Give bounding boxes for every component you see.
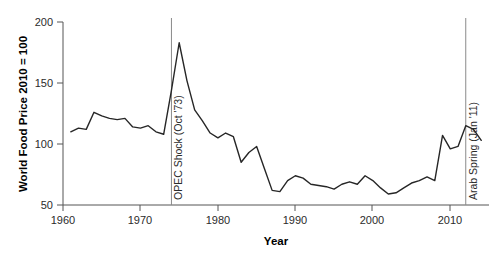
- x-tick-label-1970: 1970: [128, 214, 152, 226]
- x-tick-label-2000: 2000: [360, 214, 384, 226]
- arab-spring-label: Arab Spring (Jan '11): [467, 102, 479, 200]
- x-tick-label-1980: 1980: [206, 214, 230, 226]
- opec-shock-label: OPEC Shock (Oct '73): [172, 95, 184, 200]
- axis-group: 200 150 100 50 1960 1970 1980 1990 2000 …: [35, 16, 489, 226]
- y-tick-label-150: 150: [35, 77, 53, 89]
- y-tick-label-100: 100: [35, 138, 53, 150]
- x-axis-title: Year: [264, 235, 289, 247]
- chart-figure: 200 150 100 50 1960 1970 1980 1990 2000 …: [0, 0, 496, 255]
- world-food-price-line-chart: 200 150 100 50 1960 1970 1980 1990 2000 …: [0, 0, 496, 255]
- y-tick-label-50: 50: [41, 199, 53, 211]
- x-tick-label-2010: 2010: [438, 214, 462, 226]
- x-tick-label-1990: 1990: [283, 214, 307, 226]
- y-axis-title: World Food Price 2010 = 100: [17, 36, 29, 192]
- x-tick-label-1960: 1960: [51, 214, 75, 226]
- food-price-series-line: [71, 43, 482, 194]
- y-tick-label-200: 200: [35, 16, 53, 28]
